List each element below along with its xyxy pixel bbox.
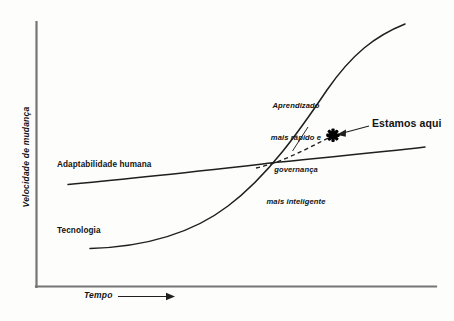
current-position-label: Estamos aqui [372,117,441,129]
series-label-adaptabilidade-humana: Adaptabilidade humana [57,160,151,169]
annotation-line-4: mais inteligente [246,197,346,208]
marker-arrow-shaft [343,126,369,133]
annotation-line-1: Aprendizado [246,101,346,112]
chart-figure: Velocidade de mudança Tempo Adaptabilida… [0,0,454,321]
series-label-tecnologia: Tecnologia [57,226,101,235]
y-axis-label: Velocidade de mudança [21,87,31,227]
annotation-line-3: governança [246,165,346,176]
learning-annotation: Aprendizado mais rápido e governança mai… [246,80,346,228]
annotation-line-2: mais rápido e [246,133,346,144]
x-axis-label: Tempo [84,290,113,300]
x-axis-arrow-head [166,293,175,300]
